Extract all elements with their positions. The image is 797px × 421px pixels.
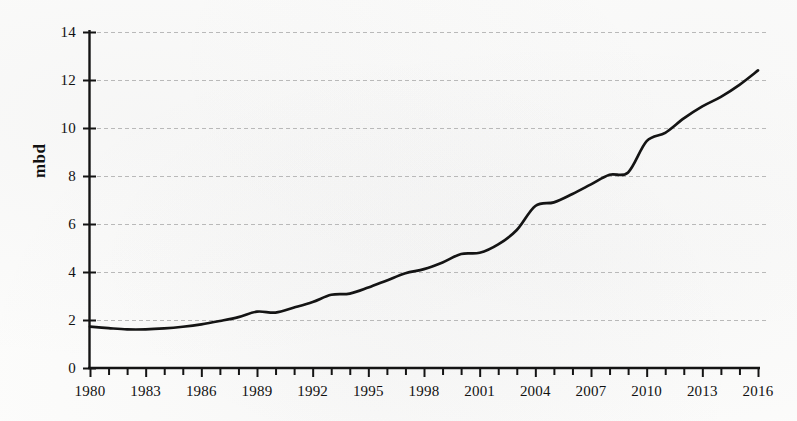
chart-figure: mbd 02468101214 198019831986198919921995…: [0, 0, 797, 421]
x-tick-label-2013: 2013: [672, 384, 732, 399]
y-tick-label-14: 14: [42, 25, 76, 40]
x-tick-label-1995: 1995: [338, 384, 398, 399]
x-tick-label-1980: 1980: [60, 384, 120, 399]
x-tick-label-1986: 1986: [171, 384, 231, 399]
x-tick-label-2016: 2016: [728, 384, 788, 399]
y-tick-label-2: 2: [42, 313, 76, 328]
y-tick-label-0: 0: [42, 361, 76, 376]
y-tick-label-10: 10: [42, 121, 76, 136]
y-tick-label-4: 4: [42, 265, 76, 280]
x-tick-label-1992: 1992: [283, 384, 343, 399]
x-tick-label-2004: 2004: [505, 384, 565, 399]
y-tick-label-12: 12: [42, 73, 76, 88]
x-tick-label-1998: 1998: [394, 384, 454, 399]
line-chart-plot: [0, 0, 797, 421]
x-tick-label-1983: 1983: [116, 384, 176, 399]
x-tick-label-2010: 2010: [617, 384, 677, 399]
x-tick-label-1989: 1989: [227, 384, 287, 399]
x-axis-ticks: [91, 368, 759, 377]
gridlines: [90, 33, 766, 321]
series-line-mbd: [90, 70, 758, 329]
y-tick-label-6: 6: [42, 217, 76, 232]
x-tick-label-2007: 2007: [561, 384, 621, 399]
x-tick-label-2001: 2001: [450, 384, 510, 399]
y-tick-label-8: 8: [42, 169, 76, 184]
